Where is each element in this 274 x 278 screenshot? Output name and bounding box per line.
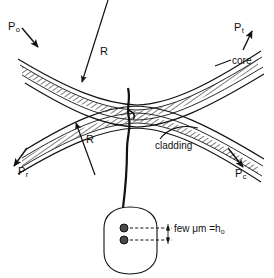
inset-core-lower <box>120 236 128 244</box>
label-input-power: Po <box>8 21 20 32</box>
inset-core-upper <box>120 224 128 232</box>
cross-section-leader <box>123 88 130 208</box>
label-reflected-power: Pr <box>18 166 28 177</box>
fiber-upper <box>18 51 264 127</box>
fiber-lower <box>18 106 264 182</box>
label-coupled-power: Pc <box>235 168 246 179</box>
arrow-transmitted-power <box>243 31 252 50</box>
arrow-input-power <box>22 28 38 47</box>
radius-leader-upper <box>82 0 108 82</box>
label-core: core <box>232 56 251 66</box>
cross-section-inset <box>104 207 172 274</box>
label-radius-upper: R <box>100 46 108 57</box>
core-leader-line <box>215 60 231 66</box>
label-radius-lower: R <box>86 134 94 145</box>
coupler-drawing <box>0 0 274 278</box>
label-core-separation: few μm =ho <box>174 224 225 234</box>
label-cladding: cladding <box>155 141 192 151</box>
label-transmitted-power: Pt <box>234 22 243 33</box>
fiber-coupler-figure: Po Pt Pr Pc R R core cladding few μm =ho <box>0 0 274 278</box>
